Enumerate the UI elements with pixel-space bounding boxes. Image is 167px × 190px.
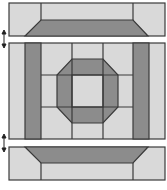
top-strip — [9, 3, 165, 36]
double-arrow-icon — [2, 30, 6, 48]
double-arrow-icon — [2, 134, 6, 152]
quilt-diagram — [0, 0, 167, 190]
center-block — [9, 43, 165, 139]
bottom-strip — [9, 147, 165, 180]
